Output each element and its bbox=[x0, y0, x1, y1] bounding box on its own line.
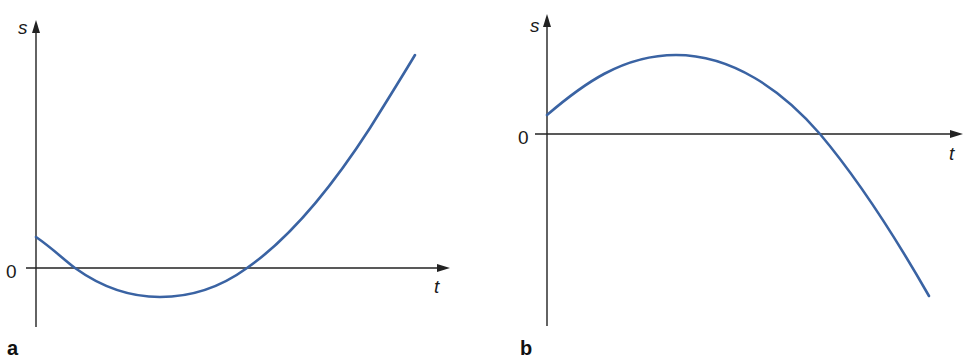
x-axis bbox=[535, 130, 963, 138]
x-axis-arrow-icon bbox=[950, 130, 963, 138]
chart-panel-a: s 0 t a bbox=[0, 0, 482, 364]
curve-b bbox=[547, 55, 929, 296]
y-axis-label: s bbox=[530, 16, 540, 35]
x-axis-label: t bbox=[949, 144, 954, 163]
y-axis bbox=[32, 20, 40, 327]
y-axis-arrow-icon bbox=[543, 14, 551, 27]
x-axis bbox=[26, 264, 450, 272]
curve-a bbox=[36, 55, 415, 297]
y-axis bbox=[543, 14, 551, 326]
chart-a-plot bbox=[0, 0, 482, 364]
x-axis-label: t bbox=[434, 277, 439, 296]
origin-label: 0 bbox=[518, 128, 529, 147]
y-axis-arrow-icon bbox=[32, 20, 40, 33]
x-axis-arrow-icon bbox=[437, 264, 450, 272]
chart-b-plot bbox=[482, 0, 965, 364]
origin-label: 0 bbox=[6, 262, 17, 281]
panel-tag-b: b bbox=[520, 338, 532, 358]
panel-tag-a: a bbox=[7, 338, 18, 358]
chart-panel-b: s 0 t b bbox=[482, 0, 965, 364]
y-axis-label: s bbox=[18, 18, 28, 37]
